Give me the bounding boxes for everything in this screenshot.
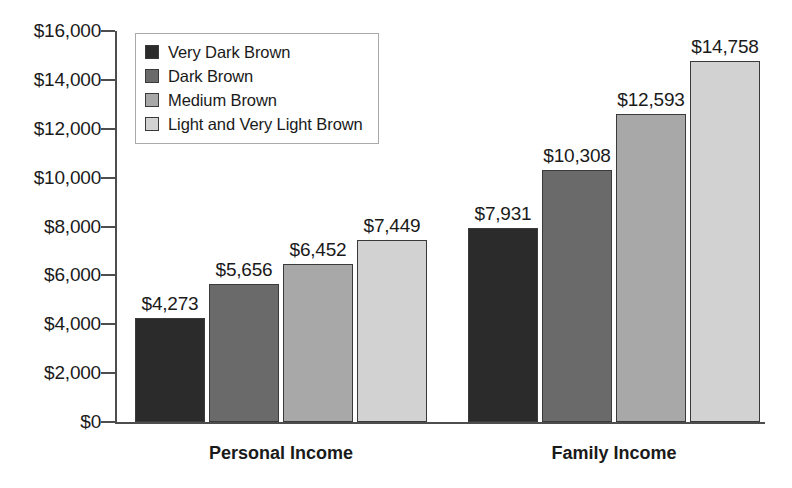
bar <box>283 264 353 422</box>
legend-item: Very Dark Brown <box>145 40 370 64</box>
y-axis-tick-label: $14,000 <box>13 69 101 91</box>
bar-value-label: $10,308 <box>528 145 626 167</box>
y-axis-tick-label: $2,000 <box>13 362 101 384</box>
y-axis-tick-label: $16,000 <box>13 20 101 42</box>
legend-item-label: Dark Brown <box>168 68 253 85</box>
bar-chart: $0$2,000$4,000$6,000$8,000$10,000$12,000… <box>0 0 792 488</box>
y-axis-tick <box>101 274 115 276</box>
legend-swatch-icon <box>145 69 159 83</box>
y-axis-tick <box>101 79 115 81</box>
y-axis-tick-label: $0 <box>13 411 101 433</box>
x-axis-category-label: Personal Income <box>171 443 391 464</box>
bar-value-label: $14,758 <box>676 36 774 58</box>
bar <box>468 228 538 422</box>
legend-item-label: Light and Very Light Brown <box>168 116 363 133</box>
bar <box>542 170 612 422</box>
bar <box>135 318 205 422</box>
bar-value-label: $7,449 <box>343 215 441 237</box>
legend-item-label: Medium Brown <box>168 92 277 109</box>
bar-value-label: $12,593 <box>602 89 700 111</box>
legend-swatch-icon <box>145 117 159 131</box>
x-axis-line <box>115 422 765 424</box>
bar-value-label: $5,656 <box>195 259 293 281</box>
y-axis-tick <box>101 372 115 374</box>
bar <box>357 240 427 422</box>
bar-value-label: $6,452 <box>269 239 367 261</box>
y-axis-tick-label: $8,000 <box>13 216 101 238</box>
bar <box>209 284 279 422</box>
bar <box>690 61 760 422</box>
y-axis-tick <box>101 226 115 228</box>
y-axis-tick <box>101 128 115 130</box>
y-axis-tick-label: $6,000 <box>13 264 101 286</box>
x-axis-category-label: Family Income <box>504 443 724 464</box>
y-axis-tick <box>101 177 115 179</box>
bar <box>616 114 686 422</box>
y-axis-tick-label: $12,000 <box>13 118 101 140</box>
y-axis-tick-label: $4,000 <box>13 313 101 335</box>
legend-item: Light and Very Light Brown <box>145 112 370 136</box>
y-axis-tick <box>101 323 115 325</box>
y-axis-tick <box>101 421 115 423</box>
bar-value-label: $7,931 <box>454 203 552 225</box>
y-axis-tick <box>101 30 115 32</box>
bar-value-label: $4,273 <box>121 293 219 315</box>
legend-item: Dark Brown <box>145 64 370 88</box>
legend-swatch-icon <box>145 45 159 59</box>
legend-item-label: Very Dark Brown <box>168 44 290 61</box>
y-axis-tick-label: $10,000 <box>13 167 101 189</box>
legend-item: Medium Brown <box>145 88 370 112</box>
chart-legend: Very Dark BrownDark BrownMedium BrownLig… <box>135 33 379 144</box>
y-axis-line <box>115 31 117 423</box>
legend-swatch-icon <box>145 93 159 107</box>
